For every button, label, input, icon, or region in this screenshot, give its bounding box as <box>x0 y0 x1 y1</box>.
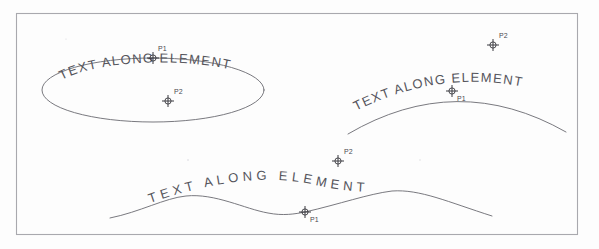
scan-speck <box>419 159 420 160</box>
point-marker-p2[interactable] <box>332 155 344 167</box>
drawing-canvas: TEXT ALONG ELEMENT P1 P2 TEXT ALONG ELEM… <box>0 0 599 249</box>
scan-speck <box>187 159 189 161</box>
arc-along-text-path: TEXT ALONG ELEMENT <box>351 70 525 114</box>
point-marker-p2[interactable] <box>487 39 499 51</box>
technical-drawing: TEXT ALONG ELEMENT P1 P2 TEXT ALONG ELEM… <box>0 0 599 249</box>
arc-element <box>348 101 566 134</box>
point-label-p1: P1 <box>158 45 167 52</box>
spline-along-text: TEXT ALONG ELEMENT <box>146 168 369 206</box>
scan-speck <box>65 38 66 39</box>
ellipse-along-text: TEXT ALONG ELEMENT <box>56 50 233 82</box>
arc-example: TEXT ALONG ELEMENT P1 P2 <box>348 32 566 134</box>
point-label-p2: P2 <box>174 88 183 95</box>
arc-along-text: TEXT ALONG ELEMENT <box>351 70 525 114</box>
spline-along-text-path: TEXT ALONG ELEMENT <box>146 168 369 206</box>
point-label-p2: P2 <box>344 148 353 155</box>
point-label-p2: P2 <box>499 32 508 39</box>
spline-example: TEXT ALONG ELEMENT P1 P2 <box>110 148 492 223</box>
point-label-p1: P1 <box>457 95 466 102</box>
point-marker-p2[interactable] <box>162 95 174 107</box>
ellipse-example: TEXT ALONG ELEMENT P1 P2 <box>42 45 264 122</box>
ellipse-along-text-path: TEXT ALONG ELEMENT <box>56 50 233 82</box>
point-label-p1: P1 <box>310 216 319 223</box>
